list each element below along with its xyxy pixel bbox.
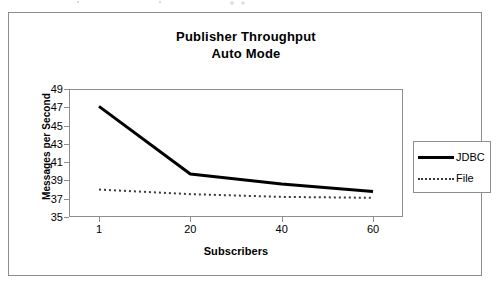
y-tick-mark: [64, 162, 69, 163]
legend-entry-jdbc: JDBC: [418, 148, 488, 166]
x-tick-label: 20: [184, 223, 196, 235]
x-tick-label: 1: [96, 223, 102, 235]
y-tick-mark: [64, 89, 69, 90]
x-axis-tick-labels: 1204060: [69, 223, 403, 239]
y-tick-mark: [64, 107, 69, 108]
y-tick-mark: [64, 217, 69, 218]
y-tick-mark: [64, 199, 69, 200]
legend-label: File: [456, 171, 474, 185]
scan-artifact: [0, 0, 504, 10]
x-axis-title: Subscribers: [69, 245, 403, 257]
series-line-file: [99, 190, 373, 198]
x-tick-mark: [373, 217, 374, 222]
x-tick-mark: [99, 217, 100, 222]
series-line-jdbc: [99, 106, 373, 191]
x-tick-label: 40: [276, 223, 288, 235]
legend-entry-file: File: [418, 169, 488, 187]
legend-label: JDBC: [456, 150, 485, 164]
legend-swatch-solid-icon: [418, 156, 454, 159]
chart-figure-frame: Publisher Throughput Auto Mode Messages …: [8, 12, 482, 276]
x-tick-mark: [282, 217, 283, 222]
x-tick-mark: [190, 217, 191, 222]
legend-swatch-dotted-icon: [418, 178, 454, 180]
y-tick-mark: [64, 126, 69, 127]
y-tick-mark: [64, 180, 69, 181]
chart-legend: JDBCFile: [413, 141, 491, 193]
x-tick-label: 60: [367, 223, 379, 235]
y-tick-mark: [64, 144, 69, 145]
